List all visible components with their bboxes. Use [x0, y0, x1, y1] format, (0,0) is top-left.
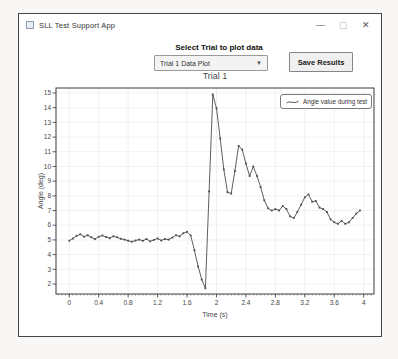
plot-frame — [56, 88, 374, 294]
svg-text:2: 2 — [47, 280, 51, 287]
svg-text:12: 12 — [44, 133, 52, 140]
window-controls: — ▢ ✕ — [316, 21, 370, 30]
svg-text:8: 8 — [47, 192, 51, 199]
close-button[interactable]: ✕ — [362, 21, 370, 30]
svg-text:3.6: 3.6 — [330, 299, 339, 306]
svg-text:9: 9 — [47, 177, 51, 184]
svg-text:1.6: 1.6 — [183, 299, 192, 306]
svg-text:13: 13 — [44, 119, 52, 126]
svg-text:10: 10 — [44, 163, 52, 170]
titlebar: SLL Test Support App — ▢ ✕ — [19, 14, 381, 36]
svg-text:7: 7 — [47, 207, 51, 214]
chevron-down-icon: ▼ — [256, 60, 262, 66]
legend-label: Angle value during test — [303, 98, 367, 105]
select-trial-label: Select Trial to plot data — [139, 43, 299, 52]
gridlines — [56, 88, 374, 294]
y-axis-label: Angle (deg) — [37, 173, 44, 209]
axis-ticks: 00.40.81.21.622.42.83.23.642345678910111… — [44, 89, 371, 306]
svg-text:2.4: 2.4 — [241, 299, 250, 306]
trial-dropdown-value: Trial 1 Data Plot — [160, 60, 210, 67]
svg-text:4: 4 — [47, 251, 51, 258]
window-title: SLL Test Support App — [39, 21, 115, 30]
svg-text:0: 0 — [67, 299, 71, 306]
angle-series-line — [69, 95, 360, 289]
minimize-button[interactable]: — — [316, 21, 325, 30]
legend: Angle value during test — [280, 94, 372, 109]
svg-text:4: 4 — [362, 299, 366, 306]
svg-text:5: 5 — [47, 236, 51, 243]
svg-text:11: 11 — [44, 148, 51, 155]
maximize-button[interactable]: ▢ — [339, 21, 348, 30]
svg-text:0.8: 0.8 — [124, 299, 133, 306]
svg-text:15: 15 — [44, 89, 52, 96]
series-markers — [68, 94, 361, 290]
app-window: SLL Test Support App — ▢ ✕ Select Trial … — [18, 13, 382, 337]
svg-text:14: 14 — [44, 104, 52, 111]
x-axis-label: Time (s) — [56, 311, 374, 318]
svg-text:0.4: 0.4 — [94, 299, 103, 306]
chart-area: 00.40.81.21.622.42.83.23.642345678910111… — [19, 69, 383, 335]
legend-line-sample — [285, 98, 300, 106]
app-icon — [26, 21, 34, 29]
svg-text:2: 2 — [215, 299, 219, 306]
svg-text:2.8: 2.8 — [271, 299, 280, 306]
svg-text:1.2: 1.2 — [153, 299, 162, 306]
svg-text:3.2: 3.2 — [300, 299, 309, 306]
svg-text:6: 6 — [47, 221, 51, 228]
screenshot-background: SLL Test Support App — ▢ ✕ Select Trial … — [0, 0, 398, 359]
svg-text:3: 3 — [47, 266, 51, 273]
